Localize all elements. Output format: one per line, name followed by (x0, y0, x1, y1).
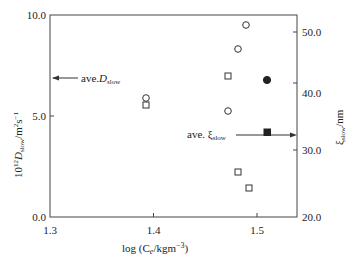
arrow-right-icon (290, 133, 297, 138)
y-right-axis-title: ξslow/nm (333, 109, 347, 145)
y-right-tick-label-20: 20.0 (302, 211, 322, 223)
y-right-tick-label-30: 30.0 (302, 144, 322, 156)
x-tick-label-1.3: 1.3 (43, 224, 57, 236)
ave-d-slow-label: ave.Dslow (81, 72, 121, 86)
ave-xi-slow-label: ave. ξslow (187, 128, 227, 142)
open-circle-marker (243, 22, 250, 29)
open-square-marker (246, 185, 252, 191)
filled-square-marker (264, 129, 271, 136)
y-right-tick-label-40: 40.0 (302, 87, 322, 99)
open-circle-marker (235, 46, 242, 53)
arrow-left-icon (52, 76, 59, 81)
y-left-tick-label-0: 0.0 (32, 211, 46, 223)
y-left-axis-title: 1012Dslow/m2s−1 (12, 111, 26, 178)
x-axis-title: log (Ce/kgm−3) (122, 241, 189, 256)
filled-circle-marker (263, 76, 270, 83)
plot-frame (50, 15, 297, 217)
y-left-tick-label-5: 5.0 (32, 110, 46, 122)
y-right-tick-label-50: 50.0 (302, 26, 322, 38)
open-circle-marker (143, 95, 150, 102)
open-square-marker (225, 73, 231, 79)
y-left-tick-label-10: 10.0 (27, 9, 47, 21)
open-circle-marker (225, 108, 232, 115)
scatter-chart: 1.3 1.4 1.5 0.0 5.0 10.0 20.0 30.0 40.0 … (0, 0, 351, 264)
open-square-marker (235, 169, 241, 175)
open-square-marker (143, 102, 149, 108)
x-tick-label-1.4: 1.4 (147, 224, 161, 236)
x-tick-label-1.5: 1.5 (250, 224, 264, 236)
